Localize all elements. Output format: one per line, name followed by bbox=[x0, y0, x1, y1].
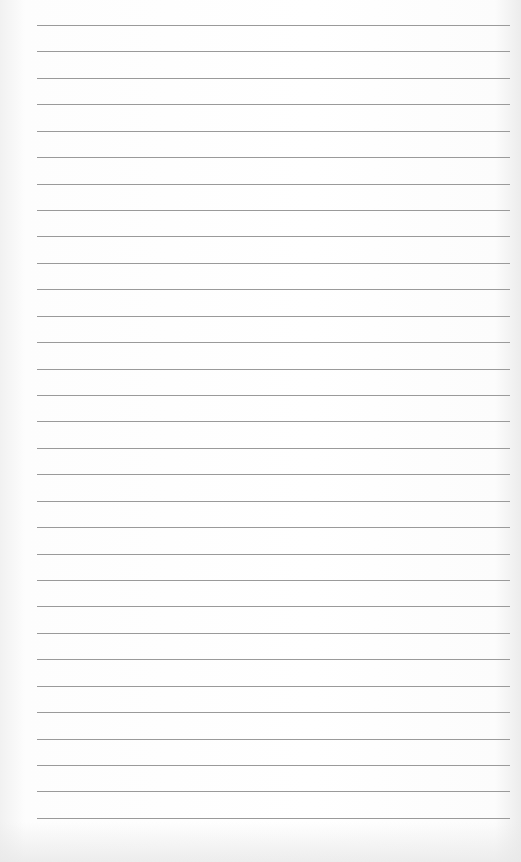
ruled-line bbox=[37, 104, 510, 105]
ruled-line bbox=[37, 184, 510, 185]
ruled-line bbox=[37, 739, 510, 740]
ruled-line bbox=[37, 606, 510, 607]
ruled-line bbox=[37, 395, 510, 396]
ruled-line bbox=[37, 474, 510, 475]
ruled-line bbox=[37, 527, 510, 528]
ruled-line bbox=[37, 316, 510, 317]
ruled-line bbox=[37, 157, 510, 158]
ruled-line bbox=[37, 791, 510, 792]
ruled-line bbox=[37, 818, 510, 819]
ruled-line bbox=[37, 633, 510, 634]
ruled-line bbox=[37, 686, 510, 687]
ruled-line bbox=[37, 421, 510, 422]
ruled-line bbox=[37, 765, 510, 766]
ruled-line bbox=[37, 78, 510, 79]
ruled-line bbox=[37, 712, 510, 713]
ruled-line bbox=[37, 51, 510, 52]
ruled-line bbox=[37, 131, 510, 132]
ruled-line bbox=[37, 342, 510, 343]
ruled-line bbox=[37, 25, 510, 26]
ruled-line bbox=[37, 659, 510, 660]
ruled-line bbox=[37, 369, 510, 370]
ruled-line bbox=[37, 263, 510, 264]
lined-paper bbox=[0, 0, 521, 862]
ruled-line bbox=[37, 210, 510, 211]
ruled-line bbox=[37, 580, 510, 581]
ruled-line bbox=[37, 501, 510, 502]
ruled-line bbox=[37, 554, 510, 555]
ruled-line bbox=[37, 448, 510, 449]
ruled-line bbox=[37, 236, 510, 237]
ruled-line bbox=[37, 289, 510, 290]
